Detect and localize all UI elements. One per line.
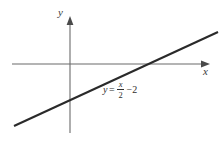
equation-lhs: y <box>103 85 107 95</box>
y-axis-label: y <box>58 7 63 18</box>
fraction-denominator: 2 <box>117 91 123 100</box>
plotted-line <box>14 32 218 126</box>
graph-figure: y x y = x 2 − 2 <box>0 0 223 146</box>
equation-fraction: x 2 <box>117 80 124 100</box>
equation-constant: 2 <box>132 85 137 95</box>
x-axis <box>12 61 210 68</box>
equation-equals-sign: = <box>109 85 115 95</box>
y-axis-arrowhead-icon <box>67 16 74 25</box>
coordinate-plane-svg <box>0 0 223 146</box>
x-axis-label: x <box>203 66 208 77</box>
equation-label: y = x 2 − 2 <box>103 80 137 100</box>
fraction-numerator: x <box>118 80 124 89</box>
y-axis <box>67 16 74 133</box>
